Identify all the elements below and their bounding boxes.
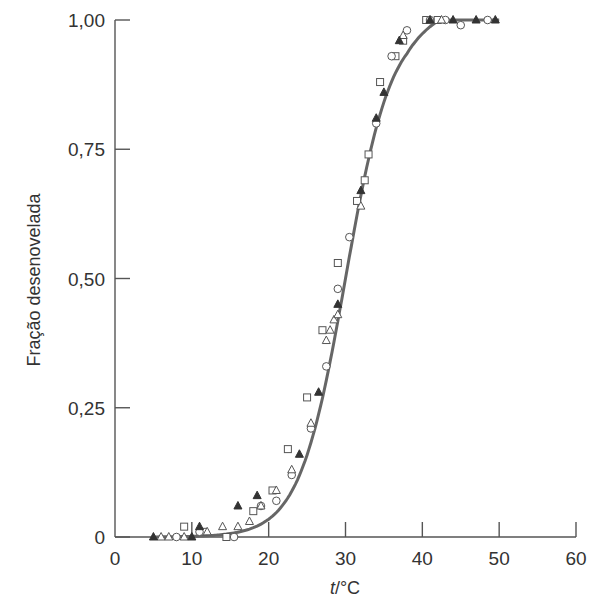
square-marker xyxy=(365,151,372,158)
chart: 00,250,500,751,000102030405060 Fração de… xyxy=(0,0,596,604)
circle-marker xyxy=(388,52,396,60)
x-tick-label: 30 xyxy=(335,548,356,569)
square-marker xyxy=(284,446,291,453)
square-marker xyxy=(223,534,230,541)
square-marker xyxy=(319,327,326,334)
open-triangle-marker xyxy=(322,336,330,344)
y-tick-label: 1,00 xyxy=(68,10,105,31)
circle-marker xyxy=(484,16,492,24)
x-tick-label: 50 xyxy=(489,548,510,569)
y-tick-label: 0,75 xyxy=(68,139,105,160)
square-marker xyxy=(334,259,341,266)
circle-marker xyxy=(334,285,342,293)
open-triangle-marker xyxy=(245,517,253,525)
y-tick-label: 0 xyxy=(94,527,105,548)
x-tick-label: 60 xyxy=(565,548,586,569)
square-marker xyxy=(361,177,368,184)
circle-marker xyxy=(457,21,465,29)
filled-triangle-marker xyxy=(295,450,303,458)
sigmoid-curve xyxy=(153,20,499,537)
filled-triangle-marker xyxy=(234,501,242,509)
circle-marker xyxy=(322,363,330,371)
data-points xyxy=(149,16,499,541)
circle-marker xyxy=(273,497,281,505)
open-triangle-marker xyxy=(234,522,242,530)
open-triangle-marker xyxy=(288,465,296,473)
open-triangle-marker xyxy=(307,419,315,427)
open-triangle-marker xyxy=(219,522,227,530)
axes: 00,250,500,751,000102030405060 xyxy=(68,10,587,569)
square-marker xyxy=(250,508,257,515)
x-tick-label: 20 xyxy=(258,548,279,569)
circle-marker xyxy=(346,233,354,241)
square-marker xyxy=(377,79,384,86)
filled-triangle-marker xyxy=(315,388,323,396)
filled-triangle-marker xyxy=(196,522,204,530)
y-axis-title: Fração desenovelada xyxy=(24,192,44,366)
open-triangle-marker xyxy=(326,326,334,334)
circle-marker xyxy=(230,533,238,541)
filled-triangle-marker xyxy=(253,491,261,499)
x-tick-label: 10 xyxy=(181,548,202,569)
square-marker xyxy=(181,523,188,530)
x-tick-label: 0 xyxy=(110,548,121,569)
circle-marker xyxy=(173,533,181,541)
fit-curve xyxy=(153,20,499,537)
x-axis-title: t/°C xyxy=(330,578,360,598)
square-marker xyxy=(304,394,311,401)
y-tick-label: 0,25 xyxy=(68,398,105,419)
y-tick-label: 0,50 xyxy=(68,269,105,290)
x-tick-label: 40 xyxy=(412,548,433,569)
